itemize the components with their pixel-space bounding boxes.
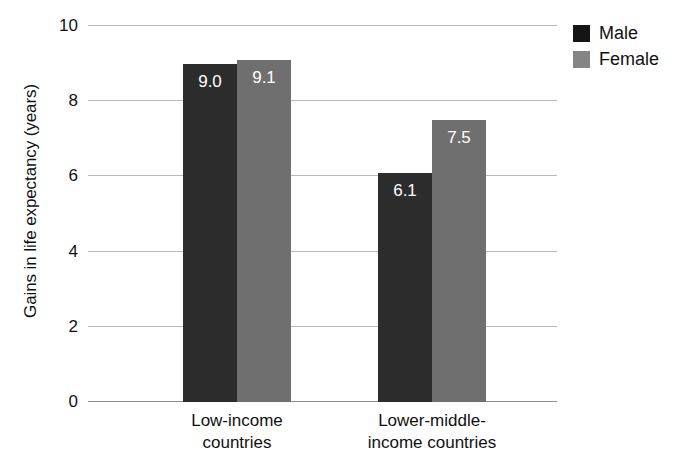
- category-label-line: Low-income: [127, 410, 347, 432]
- male-swatch-icon: [573, 25, 590, 42]
- bar-value-label: 9.1: [237, 69, 291, 87]
- x-axis-category-label: Low-incomecountries: [127, 410, 347, 454]
- bar-value-label: 6.1: [378, 182, 432, 200]
- plot-area: 9.09.16.17.5: [88, 26, 557, 402]
- y-axis-tick-label: 8: [4, 92, 78, 109]
- y-axis-tick-label: 0: [4, 393, 78, 410]
- bar-male-1: 6.1: [378, 173, 432, 402]
- gridline: [88, 326, 557, 327]
- x-axis-line: [88, 401, 557, 402]
- female-swatch-icon: [573, 51, 590, 68]
- gridline: [88, 100, 557, 101]
- bar-value-label: 9.0: [183, 73, 237, 91]
- legend-label-female: Female: [599, 50, 659, 68]
- category-label-line: income countries: [322, 432, 542, 454]
- y-axis-title: Gains in life expectancy (years): [16, 0, 46, 402]
- category-label-line: Lower-middle-: [322, 410, 542, 432]
- bar-chart: Gains in life expectancy (years) 0246810…: [0, 0, 682, 474]
- x-axis-category-label: Lower-middle-income countries: [322, 410, 542, 454]
- legend-item-male: Male: [573, 20, 678, 46]
- category-label-line: countries: [127, 432, 347, 454]
- y-axis-tick-label: 6: [4, 167, 78, 184]
- gridline: [88, 25, 557, 26]
- y-axis-tick-label: 10: [4, 17, 78, 34]
- y-axis-tick-label: 2: [4, 318, 78, 335]
- y-axis-tick-label: 4: [4, 243, 78, 260]
- bar-value-label: 7.5: [432, 129, 486, 147]
- legend-item-female: Female: [573, 46, 678, 72]
- gridline: [88, 251, 557, 252]
- bar-female-1: 7.5: [432, 120, 486, 402]
- bar-female-0: 9.1: [237, 60, 291, 402]
- gridline: [88, 175, 557, 176]
- legend-label-male: Male: [599, 24, 638, 42]
- bar-male-0: 9.0: [183, 64, 237, 402]
- legend: Male Female: [573, 20, 678, 72]
